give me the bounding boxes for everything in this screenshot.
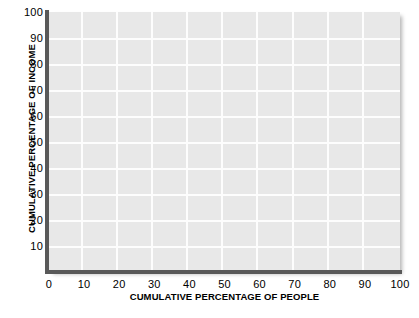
gridline-horizontal: [49, 64, 400, 66]
lorenz-curve-figure: 100 90 80 70 60 50 40 30 20 10 0 10 20 3…: [0, 0, 419, 318]
gridline-vertical: [362, 12, 364, 272]
x-tick-label: 20: [99, 278, 139, 290]
gridline-horizontal: [49, 194, 400, 196]
gridline-horizontal: [49, 90, 400, 92]
gridline-horizontal: [49, 220, 400, 222]
x-tick-label: 80: [310, 278, 350, 290]
y-tick-label: 70: [3, 84, 43, 96]
gridline-vertical: [256, 12, 258, 272]
gridline-vertical: [151, 12, 153, 272]
y-tick-label: 60: [3, 110, 43, 122]
y-tick-label: 30: [3, 188, 43, 200]
y-tick-label: 50: [3, 136, 43, 148]
x-tick-label: 60: [240, 278, 280, 290]
x-tick-label: 70: [275, 278, 315, 290]
plot-area: [49, 12, 400, 272]
x-tick-label: 30: [134, 278, 174, 290]
gridline-vertical: [186, 12, 188, 272]
y-tick-label: 80: [3, 58, 43, 70]
gridline-vertical: [327, 12, 329, 272]
gridline-vertical: [292, 12, 294, 272]
x-axis-spine: [45, 270, 402, 274]
gridline-vertical: [116, 12, 118, 272]
x-axis-title: CUMULATIVE PERCENTAGE OF PEOPLE: [49, 291, 400, 302]
x-tick-label: 10: [64, 278, 104, 290]
y-tick-label: 20: [3, 214, 43, 226]
y-tick-label: 40: [3, 162, 43, 174]
gridline-horizontal: [49, 142, 400, 144]
gridline-vertical: [81, 12, 83, 272]
gridline-vertical: [221, 12, 223, 272]
gridline-horizontal: [49, 116, 400, 118]
y-tick-label: 100: [3, 6, 43, 18]
x-tick-label: 40: [169, 278, 209, 290]
gridline-horizontal: [49, 246, 400, 248]
y-tick-label: 90: [3, 32, 43, 44]
x-tick-label: 90: [345, 278, 385, 290]
gridlines: [49, 12, 400, 272]
x-tick-label: 0: [29, 278, 69, 290]
x-tick-label: 100: [380, 278, 419, 290]
y-axis-spine: [45, 10, 49, 274]
gridline-horizontal: [49, 38, 400, 40]
figure-caption-clipped: [0, 309, 419, 318]
y-axis-title: CUMULATIVE PERCENTAGE OF INCOME: [26, 24, 37, 254]
x-tick-label: 50: [205, 278, 245, 290]
y-axis-tick-labels: 100 90 80 70 60 50 40 30 20 10: [0, 0, 43, 318]
y-tick-label: 10: [3, 240, 43, 252]
gridline-horizontal: [49, 168, 400, 170]
